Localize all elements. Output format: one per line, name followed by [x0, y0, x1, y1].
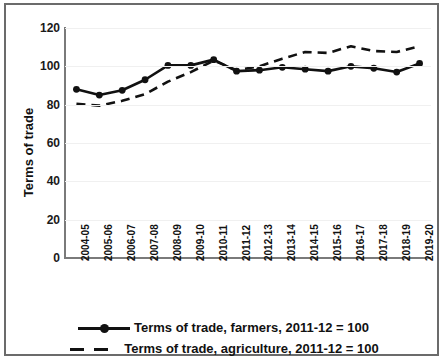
- x-axis-tick: 2019-20: [413, 261, 427, 313]
- legend-item-farmers: Terms of trade, farmers, 2011-12 = 100: [6, 317, 441, 338]
- legend-item-agriculture: Terms of trade, agriculture, 2011-12 = 1…: [6, 338, 441, 359]
- data-point-marker: [73, 86, 80, 93]
- series-line: [76, 46, 419, 105]
- x-axis-tick: 2011-12: [230, 261, 244, 313]
- y-axis-tick: 20: [26, 214, 60, 226]
- y-axis-tick: 100: [26, 60, 60, 72]
- x-axis-tick: 2012-13: [252, 261, 266, 313]
- gridline: [65, 220, 431, 221]
- gridline: [65, 143, 431, 144]
- y-axis-tick: 0: [26, 252, 60, 264]
- y-axis-tick: 120: [26, 22, 60, 34]
- line-marker-icon: [78, 321, 130, 335]
- data-point-marker: [119, 87, 126, 94]
- x-axis-tick: 2018-19: [390, 261, 404, 313]
- x-axis-tick: 2017-18: [367, 261, 381, 313]
- legend-label-farmers: Terms of trade, farmers, 2011-12 = 100: [134, 320, 369, 335]
- data-point-marker: [96, 92, 103, 99]
- x-axis-tick-labels: 2004-052005-062006-072007-082008-092009-…: [65, 261, 431, 315]
- data-point-marker: [325, 68, 332, 75]
- dashed-line-icon: [68, 342, 120, 356]
- x-axis-tick: 2004-05: [69, 261, 83, 313]
- x-axis-tick: 2013-14: [275, 261, 289, 313]
- y-axis-tick: 80: [26, 99, 60, 111]
- series-line: [76, 60, 419, 95]
- x-axis-tick: 2009-10: [184, 261, 198, 313]
- y-axis-tick: 40: [26, 175, 60, 187]
- gridline: [65, 66, 431, 67]
- x-axis-tick: 2010-11: [207, 261, 221, 313]
- data-point-marker: [393, 69, 400, 76]
- x-axis-tick: 2005-06: [92, 261, 106, 313]
- legend-label-agriculture: Terms of trade, agriculture, 2011-12 = 1…: [124, 341, 378, 356]
- chart-legend: Terms of trade, farmers, 2011-12 = 100 T…: [6, 317, 441, 359]
- data-point-marker: [142, 76, 149, 83]
- x-axis-tick: 2008-09: [161, 261, 175, 313]
- gridline: [65, 28, 431, 29]
- gridline: [65, 105, 431, 106]
- y-axis-tick: 60: [26, 137, 60, 149]
- y-axis-tick-labels: 120100806040200: [22, 5, 60, 362]
- x-axis-tick: 2007-08: [138, 261, 152, 313]
- x-axis-tick: 2014-15: [298, 261, 312, 313]
- x-axis-tick: 2006-07: [115, 261, 129, 313]
- x-axis-tick: 2016-17: [344, 261, 358, 313]
- chart-frame: Terms of trade 120100806040200 2004-0520…: [4, 3, 439, 356]
- plot-area: [65, 28, 431, 258]
- gridline: [65, 181, 431, 182]
- data-point-marker: [256, 67, 263, 74]
- x-axis-tick: 2015-16: [321, 261, 335, 313]
